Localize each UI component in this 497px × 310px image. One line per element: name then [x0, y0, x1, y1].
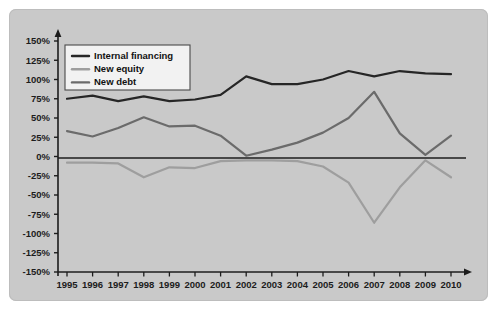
chart-figure: 150%125%100%75%50%25%0%-25%-50%-75%-100%…	[0, 0, 497, 310]
x-axis: 1995199619971998199920002001200220032004…	[56, 269, 472, 290]
x-tick-label: 1996	[82, 279, 103, 290]
y-tick-label: 75%	[31, 93, 51, 104]
series-line-new-equity	[67, 160, 451, 222]
y-tick-label: -50%	[28, 189, 51, 200]
y-tick-label: 125%	[26, 55, 51, 66]
y-tick-label: -150%	[23, 266, 51, 277]
legend-label[interactable]: New equity	[94, 63, 145, 74]
x-tick-label: 2005	[312, 279, 334, 290]
x-tick-label: 2002	[236, 279, 257, 290]
y-axis-arrow	[55, 29, 62, 37]
x-tick-label: 2010	[440, 279, 461, 290]
x-tick-label: 2006	[338, 279, 359, 290]
y-tick-label: 50%	[31, 112, 51, 123]
y-tick-label: -100%	[23, 228, 51, 239]
data-series-group	[67, 71, 451, 223]
x-tick-label: 2003	[261, 279, 282, 290]
y-tick-label: -125%	[23, 247, 51, 258]
x-tick-label: 2009	[415, 279, 436, 290]
y-axis: 150%125%100%75%50%25%0%-25%-50%-75%-100%…	[23, 29, 62, 277]
x-tick-label: 1997	[108, 279, 129, 290]
y-tick-label: 25%	[31, 132, 51, 143]
legend-label[interactable]: Internal financing	[94, 50, 173, 61]
line-chart: 150%125%100%75%50%25%0%-25%-50%-75%-100%…	[0, 0, 497, 310]
legend-label[interactable]: New debt	[94, 76, 137, 87]
x-axis-arrow	[464, 269, 472, 276]
x-tick-label: 2004	[287, 279, 309, 290]
y-tick-label: -25%	[28, 170, 51, 181]
y-tick-label: 150%	[26, 35, 51, 46]
y-tick-label: -75%	[28, 209, 51, 220]
x-tick-label: 2000	[184, 279, 205, 290]
x-tick-label: 1998	[133, 279, 154, 290]
y-tick-label: 0%	[36, 151, 50, 162]
x-tick-label: 1995	[56, 279, 78, 290]
y-tick-label: 100%	[26, 74, 51, 85]
chart-legend[interactable]: Internal financingNew equityNew debt	[65, 45, 190, 90]
x-tick-label: 2001	[210, 279, 232, 290]
series-line-new-debt	[67, 92, 451, 156]
x-tick-label: 2008	[389, 279, 410, 290]
x-tick-label: 1999	[159, 279, 180, 290]
x-tick-label: 2007	[364, 279, 385, 290]
